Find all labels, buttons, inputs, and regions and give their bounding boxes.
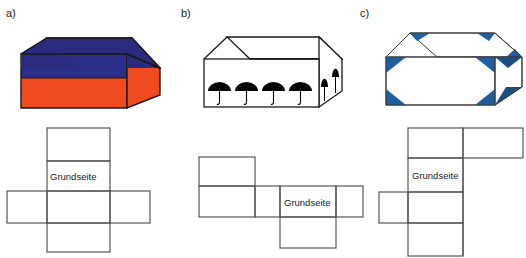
figure-panel-c: c) — [350, 0, 523, 258]
net-base-label: Grundseite — [412, 170, 458, 181]
net-cell-bottom — [408, 223, 463, 256]
solid-cuboid-umbrellas — [197, 25, 347, 117]
figure-panel-a: a) — [0, 0, 175, 258]
figure-label-c: c) — [360, 8, 369, 19]
solid-cuboid-blue-corners — [382, 24, 523, 116]
top-face — [410, 33, 522, 57]
front-face — [386, 57, 495, 105]
figure-panel-b: b) — [175, 0, 350, 258]
net-cell-left — [379, 192, 408, 223]
net-base-label: Grundseite — [284, 197, 330, 208]
net-cell-top — [408, 128, 463, 158]
net-cell-connector — [255, 186, 280, 217]
net-cell-right — [110, 191, 150, 223]
net-base-label: Grundseite — [50, 171, 96, 182]
net-cell-middle — [47, 191, 110, 223]
net-cell-left — [7, 191, 47, 223]
edge-top-left — [204, 37, 227, 59]
solid-cuboid-two-tone — [14, 24, 166, 114]
net-cell-bottom — [47, 223, 110, 252]
net-cell-bottom — [280, 217, 336, 248]
net-cell-upper-left — [199, 157, 255, 186]
net-cell-lower-left — [199, 186, 255, 217]
net-t-shape-clipped: Grundseite — [378, 126, 526, 258]
right-side-face — [319, 37, 342, 107]
net-cell-top-right — [463, 128, 523, 158]
net-cross: Grundseite — [5, 126, 170, 254]
net-cell-middle — [408, 192, 463, 223]
figure-label-b: b) — [181, 8, 191, 19]
figure-label-a: a) — [6, 8, 16, 19]
net-cell-top — [47, 128, 110, 161]
front-face-lower — [21, 78, 127, 108]
